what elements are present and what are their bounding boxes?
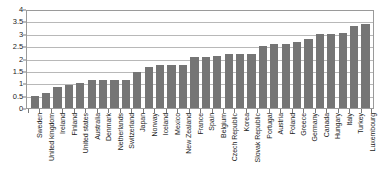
x-axis-label-cell: Germany — [305, 113, 313, 192]
bar — [213, 56, 221, 108]
x-axis-label-cell: Norway — [144, 113, 152, 192]
x-axis-label-cell: Finland — [64, 113, 72, 192]
x-axis-label-cell: Poland — [282, 113, 290, 192]
bar — [316, 34, 324, 108]
bar — [31, 96, 39, 108]
bar — [293, 42, 301, 108]
x-axis-label-cell: Luxembourg — [362, 113, 370, 192]
x-axis-label-cell: United kingdom — [41, 113, 49, 192]
plot-area — [26, 10, 374, 109]
bar — [270, 44, 278, 108]
bar-chart: 00.511.522.533.54 SwedenUnited kingdomIr… — [0, 0, 380, 192]
bar — [145, 67, 153, 108]
bar — [122, 80, 130, 108]
x-axis-label-cell: Denmark — [98, 113, 106, 192]
bar — [179, 65, 187, 108]
x-axis-label-cell: Korea — [236, 113, 244, 192]
y-axis: 00.511.522.533.54 — [0, 10, 26, 109]
x-axis-label-cell: France — [190, 113, 198, 192]
bar — [350, 26, 358, 108]
bar — [110, 80, 118, 108]
bar — [202, 57, 210, 108]
x-axis-label-cell: Hungary — [328, 113, 336, 192]
bar — [225, 54, 233, 108]
x-axis-label-cell: Portugal — [259, 113, 267, 192]
bar — [53, 87, 61, 108]
bar — [156, 65, 164, 108]
x-axis-label-cell: Italy — [339, 113, 347, 192]
y-axis-tick-label: 0.5 — [13, 93, 23, 101]
bar — [236, 54, 244, 108]
x-axis-label-cell: Netherlands — [110, 113, 118, 192]
x-axis-label-cell: Spain — [202, 113, 210, 192]
bar — [42, 93, 50, 108]
x-axis-label-cell: Switzerland — [121, 113, 129, 192]
bar — [282, 44, 290, 108]
x-axis-labels: SwedenUnited kingdomIrelandFinlandUnited… — [26, 113, 374, 192]
y-axis-tick-label: 2.5 — [13, 43, 23, 51]
y-axis-tick-label: 1.5 — [13, 68, 23, 76]
x-axis-label-cell: Mexico — [167, 113, 175, 192]
bar — [304, 39, 312, 108]
x-axis-label-cell: Australia — [87, 113, 95, 192]
x-axis-label-cell: Greece — [293, 113, 301, 192]
x-axis-label-cell: Belgium — [213, 113, 221, 192]
bar — [247, 54, 255, 108]
bar — [259, 46, 267, 108]
bar — [133, 72, 141, 108]
x-axis-label-cell: Turkey — [351, 113, 359, 192]
x-axis-label-cell: Czech Republic — [225, 113, 233, 192]
x-axis-label-cell: Slovak Republic — [248, 113, 256, 192]
x-axis-label-cell: New Zealand — [179, 113, 187, 192]
bar — [339, 33, 347, 108]
bar — [88, 80, 96, 108]
bar — [327, 34, 335, 108]
x-axis-label-cell: Sweden — [30, 113, 38, 192]
x-axis-label-cell: Iceland — [156, 113, 164, 192]
bar — [167, 65, 175, 108]
bar — [65, 85, 73, 109]
x-axis-tick-label: Luxembourg — [369, 113, 376, 151]
x-axis-label-cell: Japan — [133, 113, 141, 192]
bars-container — [27, 11, 373, 108]
y-axis-tick-label: 3.5 — [13, 19, 23, 27]
x-axis-label-cell: Austria — [270, 113, 278, 192]
x-axis-label-cell: Ireland — [53, 113, 61, 192]
bar — [190, 57, 198, 108]
x-axis-label-cell: Canada — [316, 113, 324, 192]
x-axis-label-cell: United states — [75, 113, 83, 192]
bar — [361, 24, 369, 108]
bar — [99, 80, 107, 108]
bar — [76, 83, 84, 108]
